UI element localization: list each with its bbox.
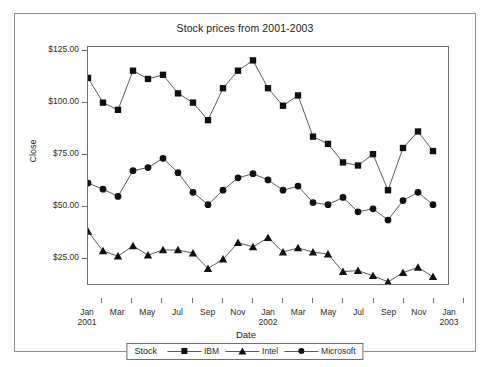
data-point-square — [160, 72, 166, 78]
x-axis-ticks — [101, 298, 463, 306]
data-point-triangle — [369, 272, 377, 279]
data-point-square — [88, 75, 91, 81]
x-tick-label: Jan2003 — [440, 307, 459, 327]
data-point-square — [340, 159, 346, 165]
data-point-square — [175, 90, 181, 96]
data-point-circle — [235, 174, 242, 181]
data-point-circle — [130, 167, 137, 174]
data-point-triangle — [144, 251, 152, 258]
x-tick-mark — [433, 298, 434, 303]
data-point-square — [370, 151, 376, 157]
data-point-triangle — [129, 242, 137, 249]
data-point-circle — [325, 201, 332, 208]
x-tick-mark — [192, 298, 193, 303]
y-tick-label: $50.00 — [21, 200, 79, 210]
data-point-circle — [415, 189, 422, 196]
y-axis-ticks: $25.00$50.00$75.00$100.00$125.00 — [15, 14, 87, 353]
x-tick-mark — [161, 298, 162, 303]
x-tick-mark — [373, 298, 374, 303]
legend-title: Stock — [134, 346, 157, 356]
data-point-square — [415, 128, 421, 134]
data-point-circle — [220, 187, 227, 194]
legend-entry-intel[interactable]: Intel — [225, 346, 278, 356]
data-point-circle — [430, 201, 437, 208]
x-tick-mark — [403, 298, 404, 303]
x-tick-mark — [463, 298, 464, 303]
data-point-circle — [370, 205, 377, 212]
data-point-square — [130, 68, 136, 74]
data-point-circle — [340, 194, 347, 201]
data-point-square — [265, 85, 271, 91]
data-point-circle — [100, 186, 107, 193]
data-point-circle — [115, 193, 122, 200]
data-point-circle — [190, 189, 197, 196]
data-point-circle — [355, 208, 362, 215]
data-point-square — [145, 76, 151, 82]
chart-figure: Stock prices from 2001-2003 Close $25.00… — [14, 13, 476, 352]
legend-label: Intel — [262, 346, 278, 356]
x-tick-label: Sep — [381, 307, 396, 317]
series-line-intel — [88, 231, 433, 281]
y-tick-label: $75.00 — [21, 148, 79, 158]
x-tick-mark — [342, 298, 343, 303]
data-point-circle — [280, 187, 287, 194]
x-tick-mark — [282, 298, 283, 303]
data-point-square — [280, 103, 286, 109]
data-point-square — [310, 133, 316, 139]
x-tick-label: Nov — [230, 307, 245, 317]
plot-area — [87, 46, 449, 285]
y-tick-label: $100.00 — [21, 96, 79, 106]
x-tick-label: Jan2001 — [78, 307, 97, 327]
legend-entry-ibm[interactable]: IBM — [167, 346, 219, 356]
data-point-square — [250, 57, 256, 63]
data-point-circle — [205, 201, 212, 208]
data-point-triangle — [264, 233, 272, 240]
data-point-triangle — [234, 239, 242, 246]
data-point-square — [220, 85, 226, 91]
x-tick-label: Mar — [291, 307, 306, 317]
legend-swatch-circle-icon — [284, 347, 318, 356]
data-point-square — [385, 187, 391, 193]
data-point-square — [115, 107, 121, 113]
data-point-circle — [400, 197, 407, 204]
x-tick-label: Jan2002 — [259, 307, 278, 327]
data-point-square — [400, 145, 406, 151]
x-tick-label: May — [139, 307, 155, 317]
data-point-square — [205, 117, 211, 123]
x-tick-mark — [131, 298, 132, 303]
x-tick-label: Jul — [172, 307, 183, 317]
x-tick-label: Mar — [110, 307, 125, 317]
data-point-circle — [88, 180, 91, 187]
legend-entry-microsoft[interactable]: Microsoft — [284, 346, 355, 356]
x-tick-label: Nov — [411, 307, 426, 317]
data-point-triangle — [399, 269, 407, 276]
y-tick-label: $25.00 — [21, 252, 79, 262]
legend-label: Microsoft — [321, 346, 355, 356]
data-point-triangle — [88, 227, 92, 234]
x-tick-mark — [312, 298, 313, 303]
x-tick-mark — [222, 298, 223, 303]
chart-legend: Stock IBMIntelMicrosoft — [126, 343, 363, 360]
data-point-square — [100, 99, 106, 105]
data-point-circle — [160, 155, 167, 162]
data-point-circle — [310, 199, 317, 206]
data-point-circle — [385, 217, 392, 224]
data-point-circle — [265, 177, 272, 184]
data-point-circle — [295, 183, 302, 190]
series-line-microsoft — [88, 158, 433, 220]
data-point-triangle — [414, 263, 422, 270]
data-point-square — [190, 99, 196, 105]
data-point-square — [295, 92, 301, 98]
data-point-circle — [250, 170, 257, 177]
data-point-triangle — [429, 273, 437, 280]
y-tick-label: $125.00 — [21, 44, 79, 54]
data-point-circle — [175, 169, 182, 176]
legend-swatch-triangle-icon — [225, 347, 259, 356]
data-point-square — [325, 141, 331, 147]
x-tick-mark — [101, 298, 102, 303]
x-axis-title: Date — [15, 329, 477, 340]
legend-label: IBM — [204, 346, 219, 356]
x-tick-label: Jul — [353, 307, 364, 317]
x-tick-label: May — [320, 307, 336, 317]
data-point-triangle — [114, 252, 122, 259]
